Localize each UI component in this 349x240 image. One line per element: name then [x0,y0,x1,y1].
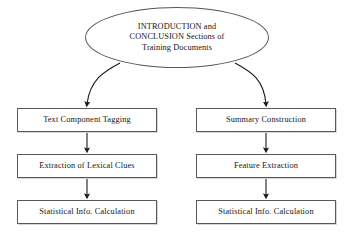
left-step-3-box: Statistical Info. Calculation [17,200,157,224]
flowchart-diagram: INTRODUCTION and CONCLUSION Sections of … [0,0,349,240]
left-step-3-label: Statistical Info. Calculation [39,208,134,216]
root-node-line-3: Training Documents [130,43,225,54]
left-step-1-box: Text Component Tagging [17,108,157,132]
left-step-2-label: Extraction of Lexical Clues [39,162,135,170]
right-step-3-label: Statistical Info. Calculation [218,208,313,216]
left-step-2-box: Extraction of Lexical Clues [17,154,157,178]
root-node-ellipse: INTRODUCTION and CONCLUSION Sections of … [85,7,269,68]
root-node-line-1: INTRODUCTION and [130,22,225,33]
right-step-2-label: Feature Extraction [234,162,298,170]
root-node-text: INTRODUCTION and CONCLUSION Sections of … [130,22,225,54]
right-step-1-label: Summary Construction [226,116,306,124]
connector-root-to-right [235,63,266,104]
right-step-2-box: Feature Extraction [196,154,336,178]
right-step-3-box: Statistical Info. Calculation [196,200,336,224]
left-step-1-label: Text Component Tagging [43,116,131,124]
connector-root-to-left [87,63,120,104]
right-step-1-box: Summary Construction [196,108,336,132]
root-node-line-2: CONCLUSION Sections of [130,32,225,43]
